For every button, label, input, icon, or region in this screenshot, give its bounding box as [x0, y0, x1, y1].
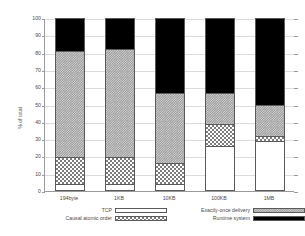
y-axis-tick-label: 30 [35, 137, 41, 142]
y-axis-tick-label: 10 [35, 172, 41, 177]
y-axis-tick-right [294, 19, 298, 20]
y-axis-tick-right [294, 36, 298, 37]
y-axis-tick-label: 100 [32, 16, 41, 21]
bar-1MB [255, 18, 285, 191]
bar-segment-exactly-once-delivery [56, 52, 84, 158]
y-axis-tick-right [294, 71, 298, 72]
y-axis-tick-right [294, 140, 298, 141]
legend-item-exactly-once-delivery: Exactly-once delivery [172, 207, 305, 213]
bar-194byte [55, 18, 85, 191]
bar-segment-causal-atomic-order [106, 158, 134, 185]
y-axis-tick-right [294, 106, 298, 107]
y-axis-tick [42, 88, 45, 89]
y-axis-tick [42, 192, 45, 193]
y-axis-tick [42, 71, 45, 72]
y-axis-tick [42, 140, 45, 141]
legend-label-exactly-once-delivery: Exactly-once delivery [172, 207, 250, 213]
y-axis-tick-label: 60 [35, 86, 41, 91]
bar-segment-exactly-once-delivery [256, 106, 284, 137]
stacked-bar-chart: % of total 0102030405060708090100 194byt… [0, 0, 305, 236]
bar-segment-tcp [256, 142, 284, 190]
x-axis-tick-label: 10KB [163, 195, 176, 201]
y-axis-tick [42, 19, 45, 20]
y-axis-tick-right [294, 192, 298, 193]
y-axis-tick-right [294, 175, 298, 176]
bar-1KB [105, 18, 135, 191]
legend-label-tcp: TCP [36, 207, 112, 213]
bar-100KB [205, 18, 235, 191]
bar-segment-causal-atomic-order [206, 125, 234, 147]
y-axis-tick-label: 40 [35, 120, 41, 125]
y-axis-tick-right [294, 123, 298, 124]
bar-segment-runtime-system [156, 19, 184, 94]
legend-item-causal-atomic-order: Causal atomic order [36, 215, 167, 221]
legend-label-runtime-system: Runtime system [172, 215, 250, 221]
y-axis-tick-label: 70 [35, 68, 41, 73]
x-axis-tick-label: 1MB [264, 195, 275, 201]
chart-legend: TCP Causal atomic order Exactly-once del… [0, 207, 305, 227]
legend-swatch-causal-atomic-order [115, 216, 167, 221]
bar-10KB [155, 18, 185, 191]
legend-item-tcp: TCP [36, 207, 167, 213]
plot-area: 0102030405060708090100 [44, 19, 294, 192]
y-axis-tick-label: 50 [35, 103, 41, 108]
bar-segment-tcp [56, 185, 84, 190]
bar-segment-runtime-system [56, 19, 84, 51]
y-axis-tick [42, 175, 45, 176]
x-axis-tick-label: 1KB [114, 195, 124, 201]
bar-segment-runtime-system [206, 19, 234, 94]
y-axis-title: % of total [17, 107, 23, 129]
x-axis-tick-label: 100KB [211, 195, 227, 201]
bar-segment-runtime-system [256, 19, 284, 106]
y-axis-tick [42, 36, 45, 37]
legend-label-causal-atomic-order: Causal atomic order [36, 215, 112, 221]
bar-segment-exactly-once-delivery [156, 94, 184, 164]
legend-swatch-runtime-system [253, 216, 305, 221]
y-axis-tick [42, 54, 45, 55]
y-axis-tick-right [294, 88, 298, 89]
y-axis-tick-label: 90 [35, 34, 41, 39]
y-axis-tick-label: 0 [38, 189, 41, 194]
bar-segment-runtime-system [106, 19, 134, 50]
bar-segment-tcp [156, 185, 184, 190]
y-axis-tick [42, 123, 45, 124]
bar-segment-tcp [106, 185, 134, 190]
bar-segment-causal-atomic-order [156, 164, 184, 185]
bar-segment-exactly-once-delivery [106, 50, 134, 158]
legend-swatch-tcp [115, 208, 167, 213]
y-axis-tick-label: 80 [35, 51, 41, 56]
x-axis-tick-label: 194byte [60, 195, 78, 201]
legend-item-runtime-system: Runtime system [172, 215, 305, 221]
bar-segment-exactly-once-delivery [206, 94, 234, 125]
y-axis-tick-label: 20 [35, 155, 41, 160]
y-axis-tick-right [294, 157, 298, 158]
y-axis-tick [42, 157, 45, 158]
y-axis-tick [42, 106, 45, 107]
y-axis-tick-right [294, 54, 298, 55]
bar-segment-causal-atomic-order [56, 158, 84, 185]
bar-segment-tcp [206, 147, 234, 190]
legend-swatch-exactly-once-delivery [253, 208, 305, 213]
